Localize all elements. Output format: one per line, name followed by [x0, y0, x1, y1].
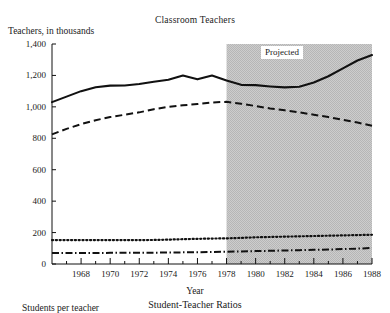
y-tick-label: 1,000: [26, 102, 47, 112]
x-tick-label: 1976: [188, 269, 207, 279]
y-tick-label: 1,400: [26, 39, 47, 49]
projected-region: [227, 44, 372, 264]
x-tick-label: 1980: [247, 269, 266, 279]
x-tick-label: 1984: [305, 269, 324, 279]
y-tick-label: 400: [33, 196, 47, 206]
projected-annotation: Projected: [261, 46, 303, 59]
x-tick-label: 1970: [101, 269, 120, 279]
x-tick-label: 1988: [363, 269, 382, 279]
x-tick-label: 1968: [72, 269, 91, 279]
next-chart-y-axis-label: Students per teacher: [22, 303, 99, 313]
x-tick-label: 1972: [130, 269, 148, 279]
x-axis-label: Year: [0, 286, 390, 296]
x-tick-label: 1978: [218, 269, 237, 279]
y-tick-label: 800: [33, 133, 47, 143]
y-tick-label: 600: [33, 165, 47, 175]
y-tick-label: 200: [33, 228, 47, 238]
x-tick-label: 1986: [334, 269, 353, 279]
x-tick-label: 1982: [276, 269, 294, 279]
y-tick-label: 0: [42, 259, 47, 269]
y-tick-label: 1,200: [26, 70, 47, 80]
x-tick-label: 1974: [159, 269, 178, 279]
